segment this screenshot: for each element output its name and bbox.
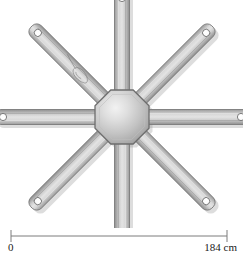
figure-container: 0 184 cm — [0, 0, 243, 258]
octagonal-hub — [95, 90, 149, 144]
arm-n — [115, 0, 130, 101]
arm-s — [115, 133, 130, 228]
device-svg — [0, 0, 243, 228]
arm-e — [138, 110, 243, 125]
scale-max-label: 184 cm — [204, 242, 237, 253]
device-illustration — [0, 0, 243, 228]
scale-bar: 0 184 cm — [0, 228, 243, 258]
arm-w — [0, 110, 106, 125]
scale-min-label: 0 — [8, 242, 14, 253]
